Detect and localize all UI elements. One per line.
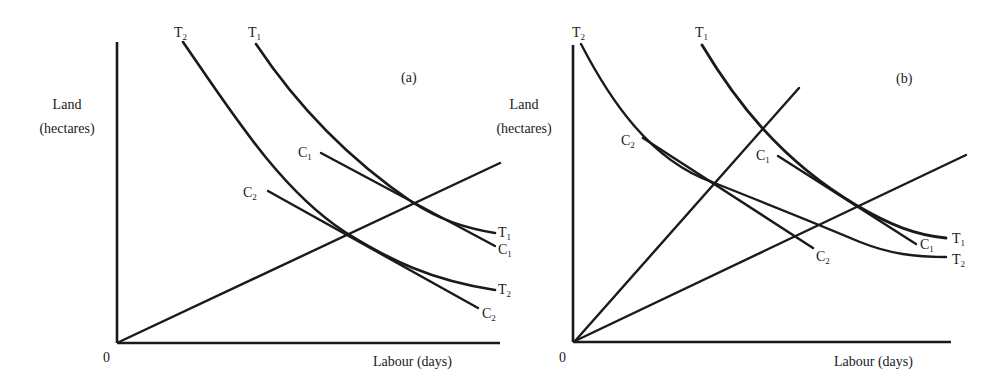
panel-b-label-t1-end: T1 bbox=[952, 231, 965, 248]
panel-a-isocost-c2 bbox=[268, 191, 478, 308]
panel-b-expansion-path-steep bbox=[575, 88, 799, 341]
panel-a-label-c2-start: C2 bbox=[243, 185, 257, 202]
diagram-canvas: (a) Land (hectares) 0 Labour (days) T2 T… bbox=[0, 0, 1004, 389]
panel-a-expansion-path bbox=[119, 163, 500, 342]
panel-b-y-axis-label: Land bbox=[510, 97, 539, 112]
panel-b-label-c2-start: C2 bbox=[621, 133, 635, 150]
panel-b-label-c1-start: C1 bbox=[756, 148, 770, 165]
panel-b-expansion-path-shallow bbox=[575, 155, 966, 341]
panel-a-label-t2-top: T2 bbox=[174, 25, 187, 42]
panel-b-origin-label: 0 bbox=[559, 350, 566, 365]
panel-b-label-t2-end: T2 bbox=[952, 252, 965, 269]
panel-b-label-t1-top: T1 bbox=[695, 25, 708, 42]
panel-b-tag: (b) bbox=[896, 71, 913, 87]
panel-b-label-c2-end: C2 bbox=[816, 249, 830, 266]
panel-a-tag: (a) bbox=[401, 70, 417, 86]
panel-b-y-axis-label-unit: (hectares) bbox=[496, 121, 552, 137]
panel-a-x-axis-label: Labour (days) bbox=[373, 354, 452, 370]
panel-a-y-axis-label: Land bbox=[53, 97, 82, 112]
panel-a-label-t1-end: T1 bbox=[498, 225, 511, 242]
panel-b-label-t2-top: T2 bbox=[572, 25, 585, 42]
panel-a-isoquant-t2 bbox=[183, 42, 495, 290]
panel-a-label-c1-end: C1 bbox=[498, 242, 512, 259]
panel-a: (a) Land (hectares) 0 Labour (days) T2 T… bbox=[39, 25, 511, 370]
panel-a-label-c2-end: C2 bbox=[482, 306, 496, 323]
panel-a-label-t2-end: T2 bbox=[498, 282, 511, 299]
panel-b-label-c1-end: C1 bbox=[920, 237, 934, 254]
panel-a-label-c1-start: C1 bbox=[298, 145, 312, 162]
panel-a-origin-label: 0 bbox=[103, 350, 110, 365]
panel-b-x-axis-label: Labour (days) bbox=[834, 354, 913, 370]
panel-b-isocost-c1 bbox=[778, 156, 916, 244]
panel-a-label-t1-top: T1 bbox=[248, 25, 261, 42]
panel-b: (b) Land (hectares) 0 Labour (days) T2 T… bbox=[496, 25, 966, 370]
panel-a-y-axis-label-unit: (hectares) bbox=[39, 121, 95, 137]
